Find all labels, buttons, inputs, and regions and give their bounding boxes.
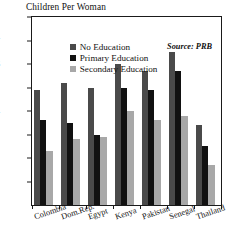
x-axis-tick-mark [140,205,141,209]
legend-item-primary-education: Primary Education [70,53,157,63]
plot-frame: No Education Primary Education Secondary… [31,16,222,206]
legend-label-secondary-education: Secondary Education [80,65,158,74]
bar [208,165,214,205]
legend-label-no-education: No Education [80,43,130,52]
x-axis-label: Senegal [168,204,196,221]
legend-swatch-icon-no-education [70,44,76,50]
chart-title: Children Per Woman [26,2,106,12]
legend-item-no-education: No Education [70,42,157,52]
bar [46,151,52,205]
legend-label-primary-education: Primary Education [80,54,148,63]
source-note: Source: PRB [167,42,212,51]
bar [154,120,160,205]
bar-group [32,17,59,205]
bar [100,137,106,205]
bar [181,116,187,205]
x-axis-tick-mark [32,205,33,209]
x-axis-tick-mark [113,205,114,209]
chart-figure: Children Per Woman 12345678 No Education… [0,0,249,248]
chart-legend: No Education Primary Education Secondary… [70,42,157,75]
x-axis-label: Kenya [114,205,138,221]
y-axis: 12345678 [0,0,31,206]
legend-item-secondary-education: Secondary Education [70,64,157,74]
legend-swatch-icon-secondary-education [70,66,76,72]
legend-swatch-icon-primary-education [70,55,76,61]
bar [73,139,79,205]
bar [127,111,133,205]
